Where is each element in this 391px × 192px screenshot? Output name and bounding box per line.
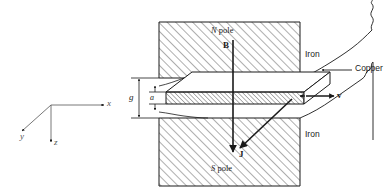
physics-figure: N pole S pole Iron Iron Copper g a B J v… bbox=[0, 0, 391, 192]
south-pole-label: S pole bbox=[211, 164, 232, 173]
vector-B-label: B bbox=[223, 41, 229, 50]
x-axis-label: x bbox=[107, 99, 111, 108]
figure-canvas bbox=[0, 0, 391, 192]
north-pole-word: pole bbox=[217, 25, 234, 35]
copper-bar-front-hatch bbox=[166, 92, 304, 104]
y-axis-arrow bbox=[22, 105, 51, 131]
copper-label: Copper bbox=[355, 64, 383, 73]
y-axis-label: y bbox=[20, 132, 24, 141]
thickness-dimension-label: a bbox=[150, 94, 154, 102]
dimension-g bbox=[131, 78, 159, 118]
north-pole-block bbox=[159, 0, 373, 78]
vector-J-label: J bbox=[239, 150, 244, 159]
north-pole-label: N pole bbox=[211, 26, 233, 35]
south-pole-word: pole bbox=[215, 163, 232, 173]
z-axis-label: z bbox=[54, 138, 58, 147]
south-pole-hatch bbox=[159, 118, 300, 186]
gap-dimension-label: g bbox=[129, 93, 134, 102]
coordinate-axes-group bbox=[22, 105, 104, 142]
gap-bottom-wave-left bbox=[159, 112, 208, 118]
vector-v-label: v bbox=[337, 91, 342, 100]
iron-top-label: Iron bbox=[305, 50, 320, 59]
copper-bar-top-face bbox=[166, 72, 330, 92]
iron-top-break-wave bbox=[371, 0, 373, 30]
copper-bar bbox=[166, 72, 330, 104]
iron-bottom-label: Iron bbox=[305, 130, 320, 139]
